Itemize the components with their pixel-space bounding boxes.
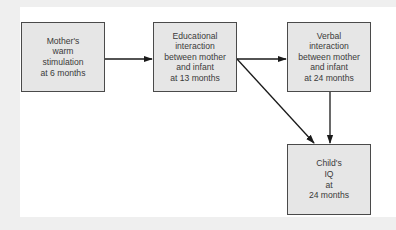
node-mother-warm-stimulation: Mother's warm stimulation at 6 months bbox=[21, 22, 105, 92]
node-educational-interaction: Educational interaction between mother a… bbox=[153, 22, 237, 92]
node-label: Educational interaction between mother a… bbox=[164, 31, 226, 84]
diagram-stage: Mother's warm stimulation at 6 months Ed… bbox=[0, 0, 396, 230]
node-label: Verbal interaction between mother and in… bbox=[298, 31, 360, 84]
node-child-iq: Child's IQ at 24 months bbox=[287, 144, 371, 215]
node-label: Child's IQ at 24 months bbox=[309, 158, 349, 200]
node-label: Mother's warm stimulation at 6 months bbox=[41, 36, 86, 78]
node-verbal-interaction: Verbal interaction between mother and in… bbox=[287, 22, 371, 92]
